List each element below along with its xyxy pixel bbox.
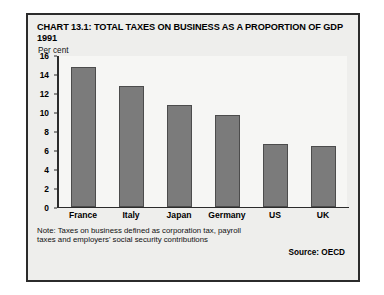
y-tick-mark [54, 132, 57, 133]
chart-panel: CHART 13.1: TOTAL TAXES ON BUSINESS AS A… [26, 13, 360, 282]
chart-note: Note: Taxes on business defined as corpo… [37, 226, 252, 245]
y-tick-mark [54, 113, 57, 114]
bar-japan [167, 105, 192, 207]
y-tick-mark [54, 94, 57, 95]
chart-inner: CHART 13.1: TOTAL TAXES ON BUSINESS AS A… [28, 15, 358, 280]
bar-slot [155, 56, 203, 206]
y-tick-mark [54, 75, 57, 76]
bar-germany [215, 115, 240, 206]
y-axis-label: Per cent [38, 46, 349, 55]
y-tick-label: 2 [44, 185, 49, 193]
x-tick-label: France [59, 211, 107, 220]
chart-source: Source: OECD [289, 248, 345, 257]
y-tick-mark [54, 56, 57, 57]
bar-slot [299, 56, 347, 206]
bar-italy [119, 86, 144, 206]
x-tick-label: US [251, 211, 299, 220]
x-tick-label: Germany [203, 211, 251, 220]
y-tick-label: 4 [44, 166, 49, 174]
y-axis-ticks: 0246810121416 [38, 56, 54, 208]
x-tick-label: Japan [155, 211, 203, 220]
bar-slot [203, 56, 251, 206]
bar-slot [251, 56, 299, 206]
chart-footer: Note: Taxes on business defined as corpo… [37, 226, 349, 258]
plot-area [59, 56, 347, 206]
bar-slot [59, 56, 107, 206]
bar-uk [311, 146, 336, 207]
x-tick-label: UK [299, 211, 347, 220]
y-tick-label: 16 [40, 52, 49, 60]
plot-wrapper: 0246810121416 [38, 56, 349, 208]
x-axis-line [57, 207, 349, 209]
y-tick-label: 8 [44, 128, 49, 136]
y-tick-mark [54, 208, 57, 209]
y-tick-mark [54, 151, 57, 152]
x-axis-labels: FranceItalyJapanGermanyUSUK [59, 211, 347, 220]
chart-title: CHART 13.1: TOTAL TAXES ON BUSINESS AS A… [37, 22, 349, 43]
y-tick-label: 12 [40, 90, 49, 98]
y-tick-mark [54, 189, 57, 190]
x-tick-label: Italy [107, 211, 155, 220]
y-tick-mark [54, 170, 57, 171]
y-tick-label: 14 [40, 71, 49, 79]
bar-france [71, 67, 96, 206]
y-tick-label: 6 [44, 147, 49, 155]
y-tick-label: 10 [40, 109, 49, 117]
y-tick-label: 0 [44, 204, 49, 212]
bar-us [263, 144, 288, 207]
bar-slot [107, 56, 155, 206]
